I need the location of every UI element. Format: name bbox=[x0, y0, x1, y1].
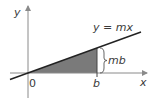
height-label: mb bbox=[108, 54, 126, 67]
height-brace bbox=[100, 48, 107, 73]
origin-label: 0 bbox=[29, 77, 36, 90]
y-axis-label: y bbox=[13, 6, 21, 19]
diagram-canvas: y x 0 b y = mx mb bbox=[0, 0, 158, 104]
x-axis-label: x bbox=[139, 76, 147, 89]
line-equation-label: y = mx bbox=[92, 21, 133, 34]
b-label: b bbox=[93, 77, 100, 90]
